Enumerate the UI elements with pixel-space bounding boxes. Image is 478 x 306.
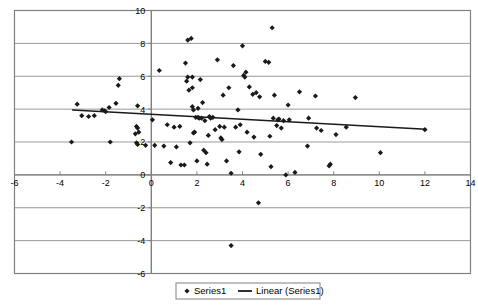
legend-label-linear-series1[interactable]: Linear (Series1) (256, 285, 324, 296)
x-tick-label-8: 8 (331, 178, 336, 188)
x-tick-label-2: 2 (194, 178, 199, 188)
legend-label-series1[interactable]: Series1 (194, 285, 226, 296)
x-tick-label--6: -6 (10, 178, 18, 188)
y-tick-label-10: 10 (135, 6, 145, 16)
x-tick-label-10: 10 (374, 178, 384, 188)
x-tick-label--4: -4 (56, 178, 64, 188)
x-tick-label-12: 12 (420, 178, 430, 188)
chart-legend[interactable]: Series1Linear (Series1) (176, 283, 324, 299)
x-tick-label-4: 4 (240, 178, 245, 188)
y-tick-label--4: -4 (137, 236, 145, 246)
chart-canvas: -6-4-202468101214 1086420-2-4-6 Series1L… (0, 0, 478, 306)
y-tick-label--2: -2 (137, 203, 145, 213)
y-tick-label-8: 8 (140, 39, 145, 49)
y-tick-label-6: 6 (140, 72, 145, 82)
x-tick-label-14: 14 (465, 178, 475, 188)
x-tick-label-6: 6 (286, 178, 291, 188)
scatter-chart: -6-4-202468101214 1086420-2-4-6 Series1L… (0, 0, 478, 306)
y-tick-label--6: -6 (137, 269, 145, 279)
y-tick-label-0: 0 (140, 170, 145, 180)
x-tick-label-0: 0 (149, 178, 154, 188)
x-tick-label--2: -2 (102, 178, 110, 188)
